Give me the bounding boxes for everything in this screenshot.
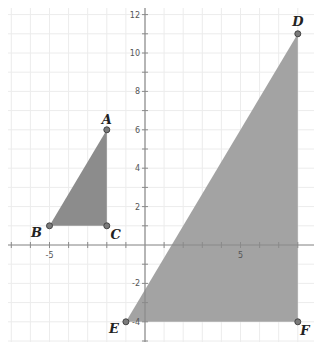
vertex-c-label: C (111, 227, 122, 242)
vertex-d-point (295, 31, 301, 37)
vertex-a-label: A (100, 112, 112, 127)
triangle-DEF (126, 34, 298, 322)
triangle-ABC (50, 130, 107, 226)
y-tick-label: -2 (132, 279, 140, 288)
y-tick-label: 10 (130, 49, 140, 58)
y-tick-label: 4 (135, 164, 140, 173)
vertex-b-label: B (30, 225, 42, 240)
vertex-a-point (104, 127, 110, 133)
vertex-f-label: F (299, 323, 310, 338)
coordinate-plane: -5512108642-2-4 ABCDEF (0, 0, 318, 347)
y-tick-label: -4 (132, 318, 140, 327)
vertex-d-label: D (291, 14, 304, 29)
vertex-e-point (123, 319, 129, 325)
y-tick-label: 12 (130, 11, 140, 20)
vertex-b-point (47, 223, 53, 229)
y-tick-label: 8 (135, 87, 140, 96)
y-tick-label: 6 (135, 126, 140, 135)
triangles-layer (50, 34, 298, 322)
vertex-c-point (104, 223, 110, 229)
x-tick-label: -5 (46, 251, 54, 260)
y-tick-label: 2 (135, 203, 140, 212)
vertex-e-label: E (108, 321, 120, 336)
x-tick-label: 5 (238, 251, 243, 260)
